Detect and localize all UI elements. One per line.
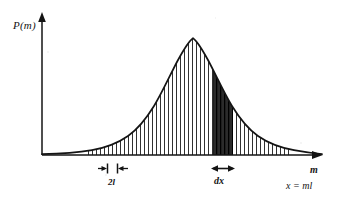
relation-label: x = ml <box>286 181 312 191</box>
dx-label: dx <box>214 176 224 186</box>
interval-2l-label: 2l <box>108 178 115 187</box>
y-axis-label: P(m) <box>13 20 36 31</box>
x-axis-label: m <box>310 165 318 175</box>
probability-distribution-figure <box>0 0 342 199</box>
